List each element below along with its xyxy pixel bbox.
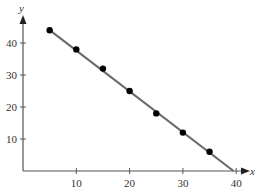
ticks: 1020304010203040 (6, 37, 242, 189)
y-tick-label: 40 (6, 37, 18, 49)
data-point (153, 110, 159, 116)
x-tick-label: 30 (177, 177, 189, 189)
x-tick-label: 20 (124, 177, 136, 189)
data-point (180, 129, 186, 135)
x-tick-label: 40 (231, 177, 243, 189)
x-tick-label: 10 (71, 177, 83, 189)
data-point (126, 88, 132, 94)
y-tick-label: 30 (6, 69, 18, 81)
y-tick-label: 10 (6, 133, 18, 145)
data-point (100, 65, 106, 71)
line-fit-chart: 1020304010203040 x y (0, 0, 260, 195)
y-axis-label: y (18, 2, 24, 14)
x-axis-label: x (249, 165, 255, 177)
data-point (73, 46, 79, 52)
data-point (206, 149, 212, 155)
y-tick-label: 20 (6, 101, 18, 113)
data-point (46, 27, 52, 33)
